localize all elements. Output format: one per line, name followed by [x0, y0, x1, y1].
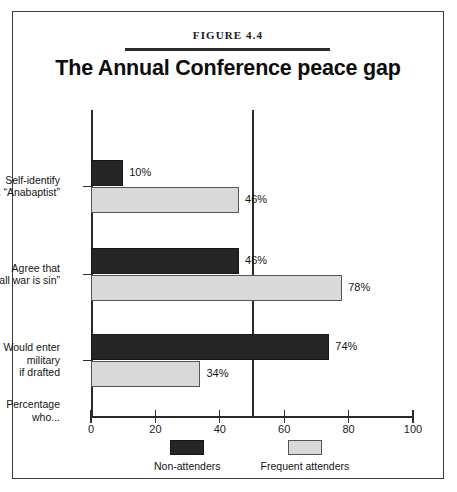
y-axis-label-line: who...: [6, 411, 60, 424]
category-label: Self-identifyas “Anabaptist”: [0, 174, 60, 199]
x-axis-tick-label: 80: [342, 423, 354, 435]
x-axis-tick-label: 100: [404, 423, 422, 435]
bar: [91, 275, 342, 301]
figure-number-caption: FIGURE 4.4: [13, 29, 443, 41]
category-label: Would entermilitaryif drafted: [4, 341, 60, 379]
category-label-line: as “Anabaptist”: [0, 186, 60, 199]
category-axis-tick: [83, 186, 91, 187]
bar-value-label: 10%: [129, 166, 151, 178]
legend-label: Frequent attenders: [261, 460, 350, 472]
bar: [91, 361, 200, 387]
legend-swatch: [170, 440, 204, 455]
chart-legend: Non-attendersFrequent attenders: [154, 440, 349, 472]
category-label-line: Self-identify: [0, 174, 60, 187]
category-axis-tick: [83, 274, 91, 275]
category-label: Agree that“all war is sin”: [0, 262, 60, 287]
x-axis-tick: [90, 410, 91, 423]
bar-value-label: 34%: [206, 367, 228, 379]
category-label-line: Would enter: [4, 341, 60, 354]
x-axis-tick: [412, 410, 413, 423]
x-axis-tick-label: 60: [278, 423, 290, 435]
chart-plot-area: 020406080100 10%46%46%78%74%34%: [91, 110, 413, 416]
x-axis-tick: [284, 410, 285, 423]
x-axis-line: [91, 416, 413, 418]
x-axis-tick: [219, 410, 220, 423]
x-axis-tick-label: 0: [88, 423, 94, 435]
bar: [91, 160, 123, 186]
bar: [91, 248, 239, 274]
x-axis-tick-label: 40: [214, 423, 226, 435]
legend-swatch: [288, 440, 322, 455]
category-axis-tick: [83, 360, 91, 361]
bar: [91, 187, 239, 213]
legend-item: Non-attenders: [154, 440, 221, 472]
x-axis-tick: [348, 410, 349, 423]
bar-value-label: 46%: [245, 193, 267, 205]
category-label-line: if drafted: [4, 366, 60, 379]
legend-label: Non-attenders: [154, 460, 221, 472]
y-axis-label: Percentagewho...: [6, 398, 60, 423]
bar-value-label: 78%: [348, 281, 370, 293]
bar: [91, 334, 329, 360]
legend-item: Frequent attenders: [261, 440, 350, 472]
bar-value-label: 46%: [245, 254, 267, 266]
page-title: The Annual Conference peace gap: [13, 56, 443, 81]
bar-value-label: 74%: [335, 340, 357, 352]
y-axis-label-line: Percentage: [6, 398, 60, 411]
category-label-line: Agree that: [0, 262, 60, 275]
category-label-line: “all war is sin”: [0, 274, 60, 287]
x-axis-tick: [155, 410, 156, 423]
category-label-line: military: [4, 354, 60, 367]
figure-frame: FIGURE 4.4 The Annual Conference peace g…: [12, 11, 444, 479]
header-divider: [125, 48, 330, 51]
x-axis-tick-label: 20: [149, 423, 161, 435]
